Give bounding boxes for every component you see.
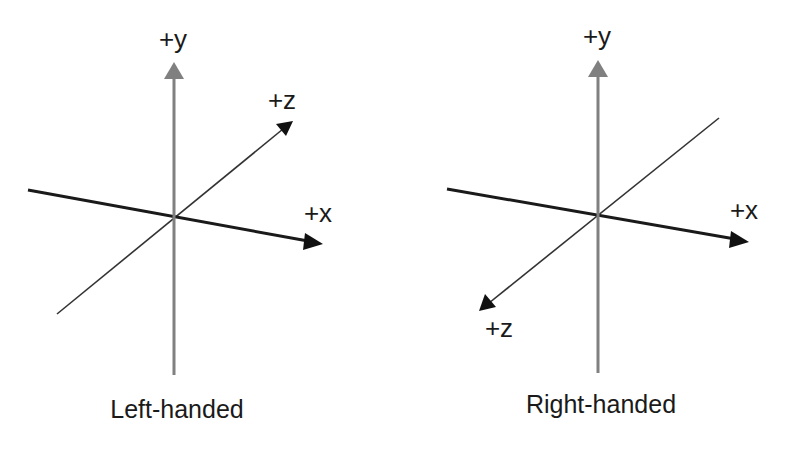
left-handed-panel: +y +z +x Left-handed (28, 24, 332, 423)
right-x-axis-line (447, 189, 735, 239)
left-x-arrowhead-icon (303, 233, 323, 250)
left-x-label: +x (304, 198, 332, 228)
left-handed-caption: Left-handed (110, 395, 243, 423)
right-z-label: +z (485, 313, 513, 343)
left-y-label: +y (159, 24, 187, 54)
right-z-arrowhead-icon (479, 294, 496, 311)
left-z-arrowhead-icon (276, 121, 293, 136)
coordinate-systems-diagram: +y +z +x Left-handed +y +z +x Right-hand… (0, 0, 787, 449)
right-handed-caption: Right-handed (526, 390, 676, 418)
right-y-arrowhead-icon (588, 60, 608, 77)
right-x-arrowhead-icon (729, 231, 749, 248)
right-handed-panel: +y +z +x Right-handed (447, 21, 758, 418)
left-x-axis-line (28, 190, 308, 241)
right-x-label: +x (730, 195, 758, 225)
left-y-arrowhead-icon (164, 62, 184, 79)
left-z-axis-line (57, 129, 283, 314)
right-z-axis-line (489, 118, 719, 303)
left-z-label: +z (268, 85, 296, 115)
right-y-label: +y (583, 21, 611, 51)
